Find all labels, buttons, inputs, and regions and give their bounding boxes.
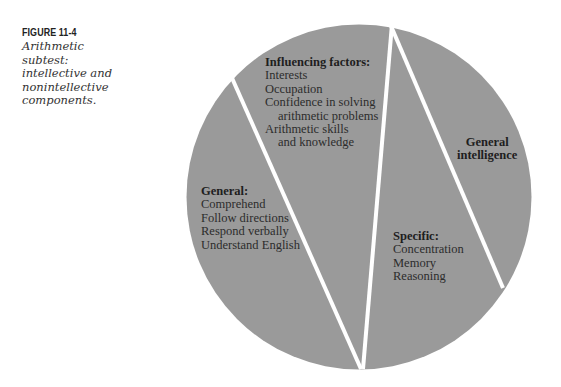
- segment-item: Concentration: [393, 243, 464, 256]
- segment-heading: intelligence: [457, 149, 517, 162]
- segment-item: Reasoning: [393, 270, 464, 283]
- segment-item: Respond verbally: [201, 225, 300, 238]
- segment-item: Understand English: [201, 239, 300, 252]
- segment-influencing-factors: Influencing factors: Interests Occupatio…: [265, 56, 378, 150]
- segment-specific: Specific: Concentration Memory Reasoning: [393, 230, 464, 284]
- segment-item: and knowledge: [265, 136, 378, 149]
- segment-item: Memory: [393, 257, 464, 270]
- segment-item: Confidence in solving: [265, 96, 378, 109]
- segment-item: Comprehend: [201, 198, 300, 211]
- segment-item: Occupation: [265, 83, 378, 96]
- segment-heading: General:: [201, 185, 300, 198]
- segment-heading: General: [457, 136, 517, 149]
- segment-item: Follow directions: [201, 212, 300, 225]
- segment-general: General: Comprehend Follow directions Re…: [201, 185, 300, 252]
- segment-heading: Specific:: [393, 230, 464, 243]
- segment-heading: Influencing factors:: [265, 56, 378, 69]
- segment-item: arithmetic problems: [265, 110, 378, 123]
- segment-item: Arithmetic skills: [265, 123, 378, 136]
- segment-general-intelligence: General intelligence: [457, 136, 517, 163]
- segment-item: Interests: [265, 69, 378, 82]
